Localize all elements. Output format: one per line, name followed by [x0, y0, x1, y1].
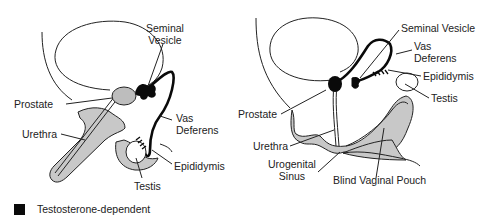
right-anatomy [256, 18, 429, 178]
black-square-icon [14, 204, 25, 215]
label-seminal-vesicle-right: Seminal Vesicle [401, 22, 475, 34]
label-line: Sinus [268, 170, 316, 182]
label-prostate-right: Prostate [238, 108, 277, 120]
label-prostate-left: Prostate [14, 98, 53, 110]
label-line: Seminal [146, 22, 184, 34]
label-line: Vas [414, 40, 457, 52]
label-line: Deferens [414, 52, 457, 64]
legend: Testosterone-dependent [14, 203, 150, 215]
label-testis-right: Testis [431, 92, 458, 104]
label-line: Vas [176, 112, 219, 124]
label-vas-deferens-left: Vas Deferens [176, 112, 219, 136]
label-urethra-right: Urethra [253, 140, 288, 152]
label-blind-vaginal-pouch: Blind Vaginal Pouch [333, 174, 426, 186]
label-line: Deferens [176, 124, 219, 136]
label-line: Vesicle [146, 34, 184, 46]
label-urogenital-sinus-right: Urogenital Sinus [268, 158, 316, 182]
legend-label: Testosterone-dependent [37, 203, 150, 215]
label-epididymis-right: Epididymis [423, 70, 474, 82]
label-vas-deferens-right: Vas Deferens [414, 40, 457, 64]
label-seminal-vesicle-left: Seminal Vesicle [146, 22, 184, 46]
label-epididymis-left: Epididymis [174, 160, 225, 172]
label-line: Urogenital [268, 158, 316, 170]
label-urethra-left: Urethra [22, 128, 57, 140]
label-testis-left: Testis [134, 180, 161, 192]
